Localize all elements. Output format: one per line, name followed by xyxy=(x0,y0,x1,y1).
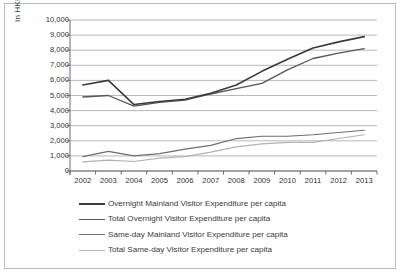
legend-item-label: Total Overnight Visitor Expenditure per … xyxy=(108,214,270,224)
series-line xyxy=(83,135,364,162)
legend-item-label: Same-day Mainland Visitor Expenditure pe… xyxy=(108,230,288,240)
legend-item[interactable]: Total Overnight Visitor Expenditure per … xyxy=(79,212,379,228)
legend-item[interactable]: Total Same-day Visitor Expenditure per c… xyxy=(79,243,379,259)
legend-line-icon xyxy=(79,219,105,220)
legend-item-label: Total Same-day Visitor Expenditure per c… xyxy=(108,245,272,255)
x-axis-tick-label: 2013 xyxy=(346,176,382,185)
legend-line-icon xyxy=(79,203,105,205)
legend-line-icon xyxy=(79,234,105,235)
figure-frame: In HKD 10,0009,0008,0007,0006,0005,0004,… xyxy=(4,3,396,269)
chart-legend: Overnight Mainland Visitor Expenditure p… xyxy=(79,196,379,258)
series-line xyxy=(83,49,364,106)
series-line xyxy=(83,37,364,105)
x-axis-tick-labels: 2002200320042005200620072008200920102011… xyxy=(5,176,397,192)
series-line xyxy=(83,130,364,156)
chart-area: In HKD 10,0009,0008,0007,0006,0005,0004,… xyxy=(5,4,397,270)
legend-item[interactable]: Same-day Mainland Visitor Expenditure pe… xyxy=(79,227,379,243)
legend-line-icon xyxy=(79,250,105,251)
legend-item[interactable]: Overnight Mainland Visitor Expenditure p… xyxy=(79,196,379,212)
legend-item-label: Overnight Mainland Visitor Expenditure p… xyxy=(108,199,286,209)
